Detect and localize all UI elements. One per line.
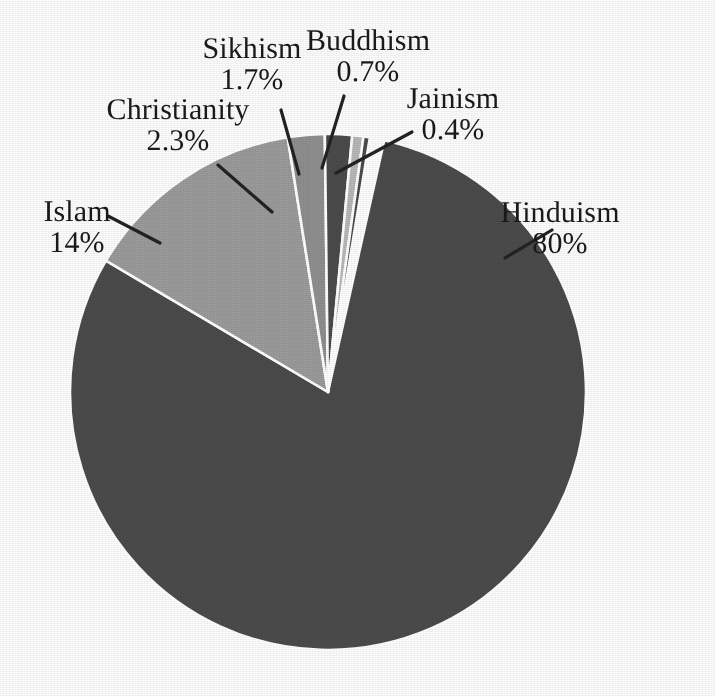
- slice-label-hinduism-percent: 80%: [500, 228, 619, 259]
- slice-label-sikhism-percent: 1.7%: [202, 64, 301, 95]
- slice-label-islam-name: Islam: [43, 196, 110, 227]
- slice-label-christianity-percent: 2.3%: [107, 125, 250, 156]
- pie-chart-figure: Hinduism 80% Islam 14% Christianity 2.3%…: [0, 0, 715, 696]
- slice-label-hinduism-name: Hinduism: [500, 197, 619, 228]
- slice-label-buddhism-name: Buddhism: [306, 25, 430, 56]
- slice-label-christianity-name: Christianity: [107, 94, 250, 125]
- slice-label-jainism-name: Jainism: [407, 83, 499, 114]
- slice-label-jainism: Jainism 0.4%: [407, 83, 499, 145]
- slice-label-jainism-percent: 0.4%: [407, 114, 499, 145]
- slice-label-christianity: Christianity 2.3%: [107, 94, 250, 156]
- slice-label-sikhism-name: Sikhism: [202, 33, 301, 64]
- slice-label-islam: Islam 14%: [43, 196, 110, 258]
- slice-label-sikhism: Sikhism 1.7%: [202, 33, 301, 95]
- slice-label-islam-percent: 14%: [43, 227, 110, 258]
- slice-label-buddhism: Buddhism 0.7%: [306, 25, 430, 87]
- slice-label-hinduism: Hinduism 80%: [500, 197, 619, 259]
